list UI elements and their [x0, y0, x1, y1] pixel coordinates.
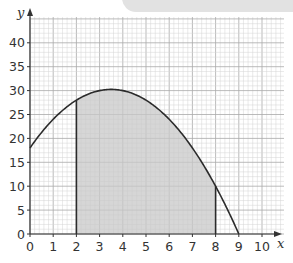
- svg-text:0: 0: [17, 227, 25, 242]
- svg-text:40: 40: [9, 35, 25, 50]
- svg-text:7: 7: [188, 239, 196, 254]
- svg-text:0: 0: [26, 239, 34, 254]
- svg-text:15: 15: [9, 155, 25, 170]
- svg-text:8: 8: [212, 239, 220, 254]
- area-under-curve-chart: 0123456789100510152025303540 y x: [0, 0, 293, 263]
- svg-text:1: 1: [49, 239, 57, 254]
- svg-text:2: 2: [72, 239, 80, 254]
- shaded-region: [76, 89, 215, 234]
- y-axis-label: y: [16, 5, 25, 20]
- svg-text:5: 5: [17, 203, 25, 218]
- svg-text:10: 10: [9, 179, 25, 194]
- svg-text:3: 3: [96, 239, 104, 254]
- svg-text:9: 9: [235, 239, 243, 254]
- svg-text:6: 6: [165, 239, 173, 254]
- x-axis-label: x: [277, 236, 285, 251]
- svg-text:10: 10: [254, 239, 270, 254]
- svg-text:5: 5: [142, 239, 150, 254]
- svg-text:25: 25: [9, 107, 25, 122]
- svg-text:35: 35: [9, 59, 25, 74]
- svg-text:4: 4: [119, 239, 127, 254]
- svg-text:30: 30: [9, 83, 25, 98]
- svg-text:20: 20: [9, 131, 25, 146]
